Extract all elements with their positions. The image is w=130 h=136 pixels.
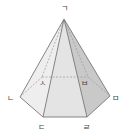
label-front-left: ㄴ (7, 94, 14, 103)
label-front-right: ㅁ (112, 94, 119, 103)
label-apex: ㄱ (61, 4, 68, 13)
label-front-bottom-right: ㄹ (83, 123, 90, 132)
label-back-right: ㅂ (81, 79, 88, 88)
label-front-bottom-left: ㄷ (38, 123, 45, 132)
pyramid-figure: ㄱ ㄴ ㄷ ㄹ ㅁ ㅂ ㅅ (0, 0, 130, 136)
label-back-left: ㅅ (39, 79, 46, 88)
hexagonal-pyramid-diagram: ㄱ ㄴ ㄷ ㄹ ㅁ ㅂ ㅅ (0, 0, 130, 136)
